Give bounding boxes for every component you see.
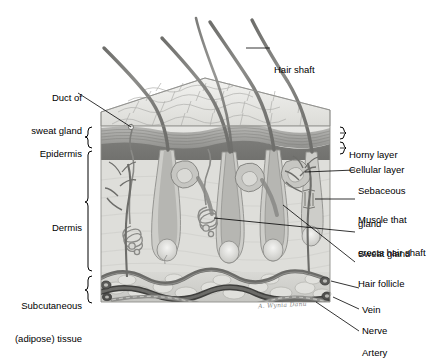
label-subcutaneous-adipose-tissue: Subcutaneous (adipose) tissue [2,278,82,362]
label-hair-shaft: Hair shaft [274,42,315,97]
bracket-epidermis [85,127,92,148]
label-line-1: Epidermis [2,148,82,159]
label-line-1: Duct of [2,92,82,103]
left-region-brackets [85,127,92,303]
right-layer-braces [340,127,346,154]
sebaceous-gland [235,163,264,192]
label-line-1: Dermis [2,222,82,233]
bracket-dermis [85,151,92,271]
label-artery: Artery [362,325,387,362]
label-line-2: (adipose) tissue [2,333,82,344]
label-line-1: Subcutaneous [2,300,82,311]
leader-vein [331,281,359,288]
label-line-1: Hair shaft [274,64,315,75]
sebaceous-gland [171,161,199,188]
label-line-1: Muscle that [358,214,426,225]
label-dermis: Dermis [2,200,82,255]
bracket-subcutaneous [85,276,92,303]
label-epidermis: Epidermis [2,126,82,181]
label-line-1: Artery [362,347,387,358]
leader-nerve [333,297,359,309]
